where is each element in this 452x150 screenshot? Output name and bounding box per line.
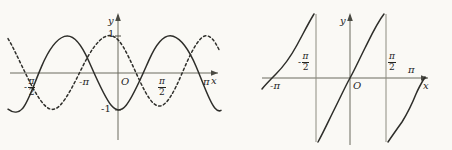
math-figure: y 1 -1 x O - π 2 -π π 2 π <box>0 0 452 150</box>
origin-label-left: O <box>121 77 129 87</box>
fraction-numerator: π <box>388 52 396 61</box>
origin-label-right: O <box>353 81 361 91</box>
fraction-numerator: π <box>302 52 310 61</box>
fraction-stack: π 2 <box>388 52 396 72</box>
x-axis-label-right: x <box>423 81 429 91</box>
y-axis-arrow <box>115 13 121 21</box>
cosine-curve <box>8 36 221 112</box>
cosine-and-sine-graph: y 1 -1 x O - π 2 -π π 2 π <box>0 0 226 150</box>
tangent-branch-right <box>388 77 425 142</box>
y-axis-label-right: y <box>340 16 346 26</box>
x-tick-label-pi-left: π <box>203 77 210 87</box>
fraction-numerator: π <box>28 77 36 86</box>
y-tick-label-one: 1 <box>108 29 114 39</box>
fraction-denominator: 2 <box>388 63 396 72</box>
fraction-stack: π 2 <box>302 52 310 72</box>
x-tick-label-half-pi-left: π 2 <box>158 77 166 97</box>
y-tick-label-minus-one: -1 <box>101 104 111 114</box>
fraction-stack: π 2 <box>28 77 36 97</box>
x-tick-label-minus-half-pi-right: - π 2 <box>298 52 309 72</box>
fraction-denominator: 2 <box>302 63 310 72</box>
fraction-stack: π 2 <box>158 77 166 97</box>
x-tick-label-pi-right: π <box>408 65 415 75</box>
y-axis-arrow <box>347 13 353 21</box>
x-tick-label-minus-pi-left: -π <box>79 77 89 87</box>
x-axis-label-left: x <box>211 76 217 86</box>
x-tick-label-half-pi-right: π 2 <box>388 52 396 72</box>
fraction-numerator: π <box>158 77 166 86</box>
x-tick-label-minus-half-pi-left: - π 2 <box>24 77 35 97</box>
tangent-graph: y x O -π - π 2 π 2 π <box>226 0 452 150</box>
x-tick-label-minus-pi-right: -π <box>270 81 280 91</box>
fraction-denominator: 2 <box>28 88 36 97</box>
y-axis-label-left: y <box>108 16 114 26</box>
fraction-denominator: 2 <box>158 88 166 97</box>
